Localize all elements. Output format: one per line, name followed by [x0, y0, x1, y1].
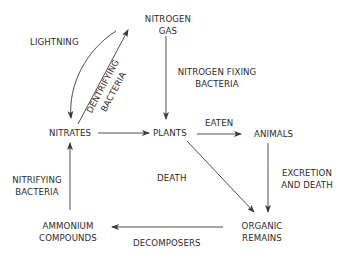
nitrifying-line2: BACTERIA	[8, 186, 66, 198]
nitrogen-fixing-line1: NITROGEN FIXING	[172, 66, 262, 78]
organic-line1: ORGANIC	[232, 220, 292, 232]
nitrogen-cycle-diagram: NITROGEN GAS NITRATES PLANTS ANIMALS AMM…	[0, 0, 350, 259]
node-ammonium-compounds: AMMONIUM COMPOUNDS	[28, 220, 108, 244]
death-arrow	[187, 141, 254, 212]
label-excretion-and-death: EXCRETION AND DEATH	[276, 167, 338, 191]
excretion-line2: AND DEATH	[276, 179, 338, 191]
nitrogen-gas-line1: NITROGEN	[126, 13, 210, 25]
node-nitrates: NITRATES	[49, 127, 91, 139]
ammonium-line1: AMMONIUM	[28, 220, 108, 232]
label-lightning: LIGHTNING	[30, 36, 79, 48]
ammonium-line2: COMPOUNDS	[28, 232, 108, 244]
organic-line2: REMAINS	[232, 232, 292, 244]
label-nitrogen-fixing-bacteria: NITROGEN FIXING BACTERIA	[172, 66, 262, 90]
node-animals: ANIMALS	[254, 128, 293, 140]
node-organic-remains: ORGANIC REMAINS	[232, 220, 292, 244]
label-decomposers: DECOMPOSERS	[133, 237, 201, 249]
label-death: DEATH	[157, 172, 186, 184]
node-nitrogen-gas: NITROGEN GAS	[126, 13, 210, 37]
node-plants: PLANTS	[153, 127, 187, 139]
nitrifying-line1: NITRIFYING	[8, 174, 66, 186]
nitrogen-fixing-line2: BACTERIA	[172, 78, 262, 90]
label-nitrifying-bacteria: NITRIFYING BACTERIA	[8, 174, 66, 198]
nitrogen-gas-line2: GAS	[126, 25, 210, 37]
label-eaten: EATEN	[205, 117, 233, 129]
excretion-line1: EXCRETION	[276, 167, 338, 179]
